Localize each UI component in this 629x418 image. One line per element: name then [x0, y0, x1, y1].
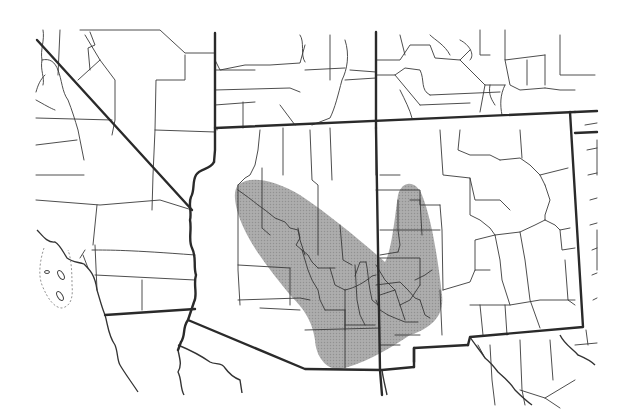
- state-border: [214, 33, 215, 162]
- state-border: [575, 111, 597, 112]
- state-border: [575, 132, 597, 133]
- range-map: [0, 0, 629, 418]
- map-canvas: [0, 0, 629, 418]
